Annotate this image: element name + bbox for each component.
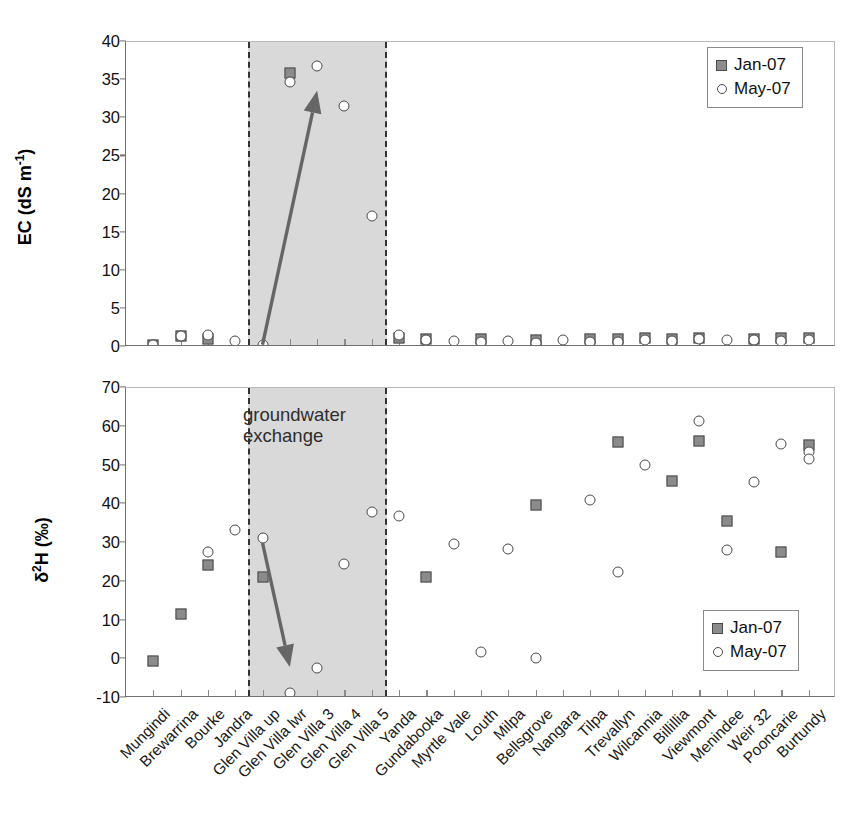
y-tick-label: 20 xyxy=(78,571,120,590)
legend-entry-jan07: Jan-07 xyxy=(716,53,791,77)
filled-square-icon xyxy=(712,623,723,634)
y-tick-label: 0 xyxy=(78,649,120,668)
y-tick-label: 70 xyxy=(78,378,120,397)
lower-y-tick-group: -10010203040506070 xyxy=(72,387,120,697)
y-tick-label: 60 xyxy=(78,416,120,435)
open-circle-icon xyxy=(713,647,723,657)
legend-label-jan07: Jan-07 xyxy=(730,618,782,638)
x-axis-label-group: MungindiBrewarrinaBourkeJandraGlen Villa… xyxy=(0,697,861,831)
y-tick-label: 40 xyxy=(78,494,120,513)
lower-y-axis-title: δ2H (‰) xyxy=(30,480,50,620)
groundwater-exchange-annotation: groundwater exchange xyxy=(243,404,383,447)
annotation-line-2: exchange xyxy=(243,425,383,446)
ec-legend: Jan-07 May-07 xyxy=(707,47,803,108)
legend-entry-may07: May-07 xyxy=(716,77,791,101)
y-tick-label: 20 xyxy=(78,184,120,203)
legend-entry-may07: May-07 xyxy=(712,640,787,664)
open-circle-icon xyxy=(717,84,727,94)
figure-root: EC (dS m-1) δ2H (‰) 0510152025303540 -10… xyxy=(0,0,861,831)
filled-square-icon xyxy=(716,60,727,71)
y-tick-label: 5 xyxy=(78,298,120,317)
d2h-legend: Jan-07 May-07 xyxy=(703,610,799,671)
y-tick-label: 30 xyxy=(78,533,120,552)
y-tick-label: 35 xyxy=(78,70,120,89)
y-tick-label: 15 xyxy=(78,222,120,241)
upper-y-tick-group: 0510152025303540 xyxy=(72,41,120,346)
y-tick-label: 25 xyxy=(78,146,120,165)
y-tick-label: 0 xyxy=(78,337,120,356)
y-tick-label: 10 xyxy=(78,610,120,629)
legend-label-may07: May-07 xyxy=(730,642,787,662)
legend-entry-jan07: Jan-07 xyxy=(712,616,787,640)
legend-label-may07: May-07 xyxy=(734,79,791,99)
upper-y-axis-title: EC (dS m-1) xyxy=(13,127,33,267)
annotation-line-1: groundwater xyxy=(243,404,383,425)
y-tick-label: 50 xyxy=(78,455,120,474)
y-tick-label: 10 xyxy=(78,260,120,279)
y-tick-label: 30 xyxy=(78,108,120,127)
y-tick-label: 40 xyxy=(78,32,120,51)
legend-label-jan07: Jan-07 xyxy=(734,55,786,75)
